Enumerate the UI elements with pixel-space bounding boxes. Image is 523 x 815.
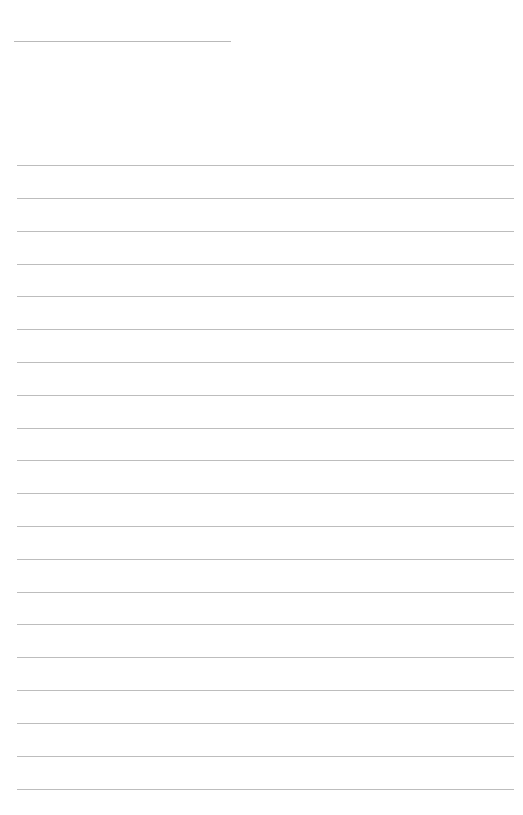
ruled-line [17,460,514,461]
ruled-line [17,592,514,593]
ruled-line [17,723,514,724]
ruled-line [17,690,514,691]
ruled-line [17,165,514,166]
ruled-line [17,493,514,494]
ruled-line [17,789,514,790]
ruled-line [17,395,514,396]
ruled-line [17,329,514,330]
ruled-line [17,264,514,265]
ruled-line [17,657,514,658]
ruled-line [17,296,514,297]
ruled-line [17,428,514,429]
ruled-lines-area [0,0,523,815]
ruled-line [17,756,514,757]
ruled-line [17,559,514,560]
ruled-line [17,624,514,625]
ruled-line [17,198,514,199]
ruled-line [17,526,514,527]
ruled-line [17,231,514,232]
ruled-line [17,362,514,363]
